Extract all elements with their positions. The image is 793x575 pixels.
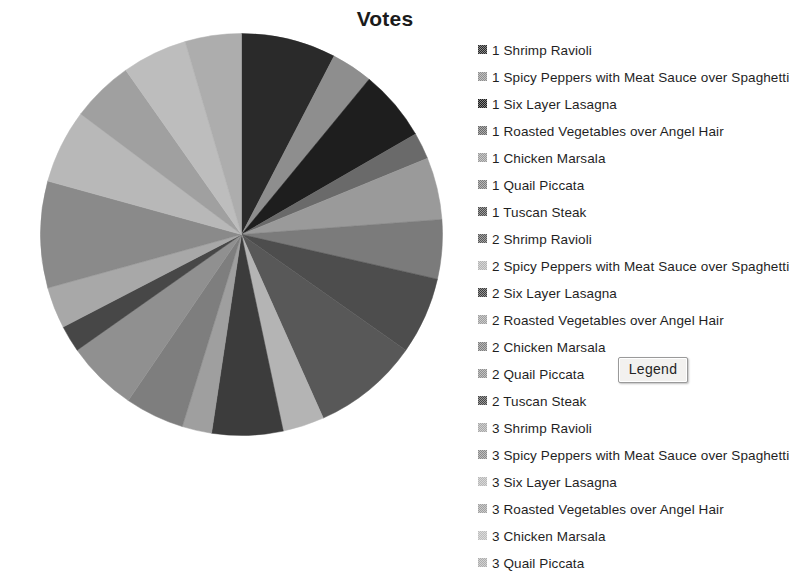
legend-swatch-icon bbox=[478, 504, 487, 513]
legend-item[interactable]: 1 Roasted Vegetables over Angel Hair bbox=[478, 117, 793, 144]
legend-swatch-icon bbox=[478, 72, 487, 81]
legend-item-label: 1 Quail Piccata bbox=[492, 172, 584, 199]
legend-swatch-icon bbox=[478, 234, 487, 243]
legend-swatch-icon bbox=[478, 477, 487, 486]
legend-item[interactable]: 1 Chicken Marsala bbox=[478, 144, 793, 171]
legend-item-label: 3 Six Layer Lasagna bbox=[492, 469, 617, 496]
legend-item[interactable]: 2 Tuscan Steak bbox=[478, 387, 793, 414]
legend-item-label: 3 Quail Piccata bbox=[492, 550, 584, 575]
legend-swatch-icon bbox=[478, 369, 487, 378]
legend-item-label: 1 Chicken Marsala bbox=[492, 145, 606, 172]
legend-item[interactable]: 2 Spicy Peppers with Meat Sauce over Spa… bbox=[478, 252, 793, 279]
legend-swatch-icon bbox=[478, 153, 487, 162]
legend-item-label: 1 Tuscan Steak bbox=[492, 199, 586, 226]
legend-item-label: 3 Chicken Marsala bbox=[492, 523, 606, 550]
legend-item-label: 2 Roasted Vegetables over Angel Hair bbox=[492, 307, 724, 334]
legend-item[interactable]: 2 Chicken Marsala bbox=[478, 333, 793, 360]
legend-swatch-icon bbox=[478, 207, 487, 216]
pie-slices-group bbox=[40, 33, 443, 436]
legend-swatch-icon bbox=[478, 99, 487, 108]
legend-item[interactable]: 3 Shrimp Ravioli bbox=[478, 414, 793, 441]
legend-swatch-icon bbox=[478, 45, 487, 54]
legend-button[interactable]: Legend bbox=[618, 357, 688, 383]
legend-item-label: 2 Chicken Marsala bbox=[492, 334, 606, 361]
legend-item[interactable]: 1 Spicy Peppers with Meat Sauce over Spa… bbox=[478, 63, 793, 90]
legend-item[interactable]: 3 Spicy Peppers with Meat Sauce over Spa… bbox=[478, 441, 793, 468]
legend-item[interactable]: 2 Roasted Vegetables over Angel Hair bbox=[478, 306, 793, 333]
legend-item[interactable]: 1 Shrimp Ravioli bbox=[478, 36, 793, 63]
legend-item-label: 3 Spicy Peppers with Meat Sauce over Spa… bbox=[492, 442, 789, 469]
legend-item[interactable]: 2 Six Layer Lasagna bbox=[478, 279, 793, 306]
legend-swatch-icon bbox=[478, 261, 487, 270]
legend-item-label: 2 Shrimp Ravioli bbox=[492, 226, 592, 253]
legend-item[interactable]: 3 Roasted Vegetables over Angel Hair bbox=[478, 495, 793, 522]
legend-item-label: 1 Spicy Peppers with Meat Sauce over Spa… bbox=[492, 64, 789, 91]
legend-item-label: 3 Roasted Vegetables over Angel Hair bbox=[492, 496, 724, 523]
legend-item-label: 1 Six Layer Lasagna bbox=[492, 91, 617, 118]
page-title: Votes bbox=[285, 7, 485, 31]
legend-swatch-icon bbox=[478, 450, 487, 459]
legend-item-label: 2 Six Layer Lasagna bbox=[492, 280, 617, 307]
chart-legend: 1 Shrimp Ravioli1 Spicy Peppers with Mea… bbox=[478, 36, 793, 575]
legend-item-label: 2 Spicy Peppers with Meat Sauce over Spa… bbox=[492, 253, 789, 280]
legend-item-label: 1 Roasted Vegetables over Angel Hair bbox=[492, 118, 724, 145]
legend-swatch-icon bbox=[478, 342, 487, 351]
legend-swatch-icon bbox=[478, 531, 487, 540]
legend-item[interactable]: 3 Chicken Marsala bbox=[478, 522, 793, 549]
legend-item-label: 3 Shrimp Ravioli bbox=[492, 415, 592, 442]
legend-item[interactable]: 1 Quail Piccata bbox=[478, 171, 793, 198]
pie-chart-canvas bbox=[40, 33, 443, 436]
legend-swatch-icon bbox=[478, 180, 487, 189]
legend-item[interactable]: 3 Quail Piccata bbox=[478, 549, 793, 575]
legend-swatch-icon bbox=[478, 126, 487, 135]
legend-item-label: 2 Quail Piccata bbox=[492, 361, 584, 388]
legend-item[interactable]: 2 Shrimp Ravioli bbox=[478, 225, 793, 252]
legend-item-label: 1 Shrimp Ravioli bbox=[492, 37, 592, 64]
legend-item-label: 2 Tuscan Steak bbox=[492, 388, 586, 415]
legend-swatch-icon bbox=[478, 423, 487, 432]
legend-swatch-icon bbox=[478, 315, 487, 324]
legend-swatch-icon bbox=[478, 396, 487, 405]
legend-swatch-icon bbox=[478, 288, 487, 297]
legend-item[interactable]: 1 Six Layer Lasagna bbox=[478, 90, 793, 117]
legend-item[interactable]: 1 Tuscan Steak bbox=[478, 198, 793, 225]
legend-item[interactable]: 3 Six Layer Lasagna bbox=[478, 468, 793, 495]
legend-swatch-icon bbox=[478, 558, 487, 567]
